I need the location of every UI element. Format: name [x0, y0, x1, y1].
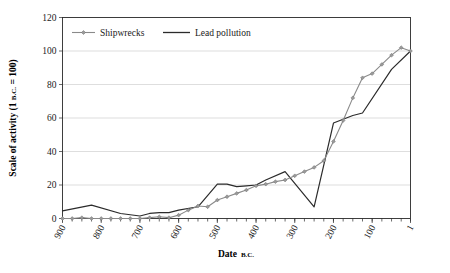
y-axis-title-tail: = 100)	[8, 59, 19, 87]
y-axis-title-main: Scale of activity (1	[8, 100, 19, 177]
y-tick-label: 40	[47, 147, 57, 157]
chart-background	[0, 0, 450, 273]
line-chart: 020406080100120 900800700600500400300200…	[0, 0, 450, 273]
y-tick-label: 60	[47, 113, 57, 123]
x-axis-title: DateB.C.	[218, 249, 254, 259]
x-axis-title-main: Date	[218, 249, 237, 259]
y-tick-label: 120	[42, 13, 57, 23]
y-axis-title-era: B.C.	[10, 87, 18, 100]
legend-label-lead-pollution: Lead pollution	[195, 28, 251, 38]
y-tick-label: 100	[42, 46, 57, 56]
y-tick-label: 0	[52, 214, 57, 224]
legend-label-shipwrecks: Shipwrecks	[100, 28, 145, 38]
y-tick-label: 20	[47, 180, 57, 190]
chart-container: 020406080100120 900800700600500400300200…	[0, 0, 450, 273]
x-axis-title-era: B.C.	[241, 251, 254, 259]
y-axis-title: Scale of activity (1 B.C. = 100)	[8, 59, 19, 176]
y-tick-label: 80	[47, 80, 57, 90]
